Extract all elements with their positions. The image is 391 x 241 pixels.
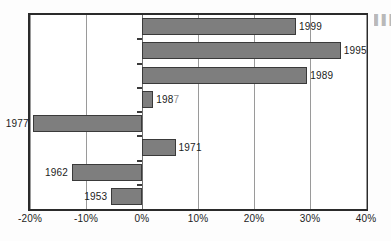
bar-1987[interactable]	[142, 91, 153, 108]
x-tick-label-10: 10%	[188, 213, 209, 224]
bar-value-label-1977: 1977	[6, 116, 29, 131]
x-axis-tick-labels: -20%-10%0%10%20%30%40%	[0, 213, 391, 235]
plot-area: 19991995198919871977197119621953	[28, 13, 368, 211]
bar-1971[interactable]	[142, 139, 176, 156]
chart-page: 19991995198919871977197119621953 -20%-10…	[0, 0, 391, 241]
bar-value-label-1987: 1987	[156, 92, 179, 107]
bar-value-label-1953: 1953	[84, 189, 107, 204]
bar-1999[interactable]	[142, 18, 296, 35]
cropped-margin-text: ▌▌▌	[374, 14, 391, 26]
x-tick-label-30: 30%	[300, 213, 321, 224]
bar-row: 1987	[30, 88, 366, 112]
bar-value-label-1995: 1995	[344, 43, 367, 58]
x-tick-label-neg10: -10%	[74, 213, 98, 224]
bar-value-label-1971: 1971	[179, 140, 202, 155]
x-tick-label-20: 20%	[244, 213, 265, 224]
bar-row: 1977	[30, 112, 366, 136]
bar-1989[interactable]	[142, 67, 307, 84]
bar-1953[interactable]	[111, 188, 142, 205]
bar-row: 1971	[30, 136, 366, 160]
bar-1995[interactable]	[142, 42, 341, 59]
x-tick-label-0: 0%	[135, 213, 150, 224]
bar-row: 1989	[30, 64, 366, 88]
bar-value-label-1989: 1989	[310, 68, 333, 83]
x-tick-label-40: 40%	[356, 213, 377, 224]
bar-1977[interactable]	[33, 115, 142, 132]
bar-row: 1953	[30, 185, 366, 209]
bar-1962[interactable]	[72, 164, 142, 181]
x-tick-label-neg20: -20%	[18, 213, 42, 224]
bar-value-label-1999: 1999	[299, 19, 322, 34]
bar-row: 1962	[30, 161, 366, 185]
bar-value-label-1962: 1962	[45, 165, 68, 180]
bar-row: 1995	[30, 39, 366, 63]
bar-row: 1999	[30, 15, 366, 39]
